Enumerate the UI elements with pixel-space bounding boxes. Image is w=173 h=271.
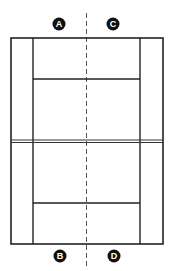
marker-c: C bbox=[107, 18, 120, 31]
marker-b-label: B bbox=[57, 251, 64, 261]
marker-c-label: C bbox=[110, 19, 117, 29]
marker-d-label: D bbox=[111, 251, 118, 261]
tennis-court-diagram: A C B D bbox=[0, 0, 173, 271]
marker-b: B bbox=[54, 250, 67, 263]
marker-a: A bbox=[53, 18, 66, 31]
marker-a-label: A bbox=[56, 19, 63, 29]
marker-d: D bbox=[108, 250, 121, 263]
